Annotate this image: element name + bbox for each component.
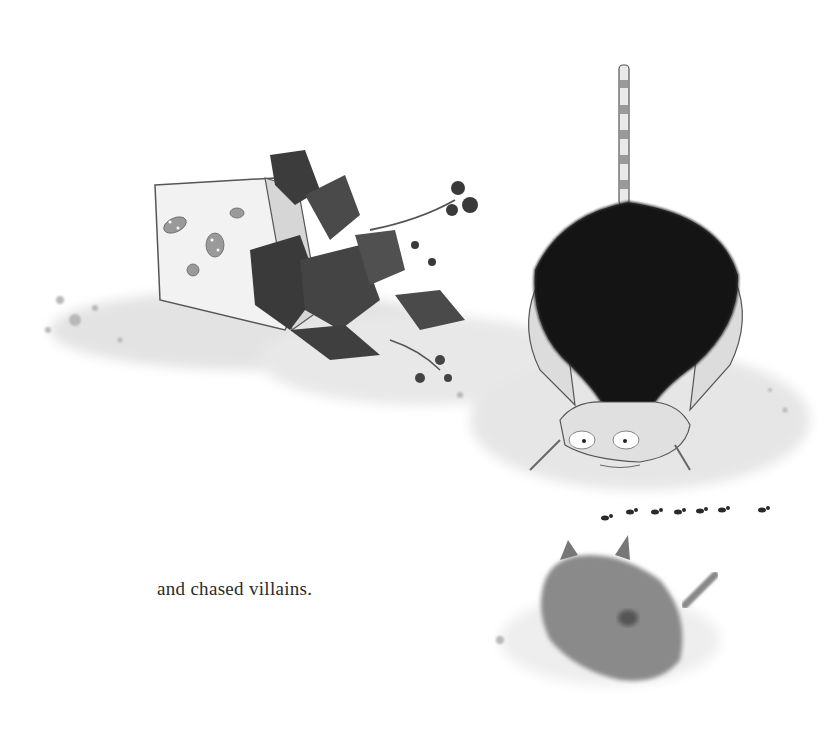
caption-text: and chased villains. xyxy=(157,578,312,600)
ant-line xyxy=(601,506,770,521)
illustration xyxy=(0,0,820,752)
picture-book-page: and chased villains. xyxy=(0,0,820,752)
